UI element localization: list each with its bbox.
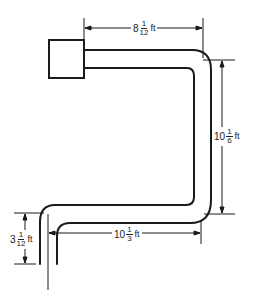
dim-denominator: 12 <box>17 240 26 248</box>
right-dimension-label: 10 1 6 ft <box>214 127 240 146</box>
dim-whole: 10 <box>114 230 125 240</box>
dim-fraction: 1 12 <box>17 231 26 248</box>
dim-whole: 8 <box>133 24 139 34</box>
arrowhead <box>196 26 202 30</box>
arrowhead <box>85 26 91 30</box>
dim-denominator: 12 <box>140 29 149 37</box>
arrowhead <box>23 214 27 220</box>
dim-denominator: 6 <box>227 137 231 145</box>
dim-fraction: 1 12 <box>140 20 149 37</box>
bottom-dimension-label: 10 1 3 ft <box>112 226 142 243</box>
dim-whole: 10 <box>214 132 225 142</box>
arrowhead <box>220 207 224 213</box>
top-dimension-label: 8 1 12 ft <box>131 20 157 37</box>
dim-unit: ft <box>135 230 140 239</box>
dim-fraction: 1 3 <box>126 226 132 243</box>
arrowhead <box>194 231 200 235</box>
dim-fraction: 1 6 <box>226 128 232 145</box>
dim-unit: ft <box>235 132 240 141</box>
dim-denominator: 3 <box>127 235 131 243</box>
source-box <box>49 40 84 78</box>
dim-unit: ft <box>27 235 32 244</box>
pipe-diagram <box>0 0 255 302</box>
arrowhead <box>220 61 224 67</box>
arrowhead <box>49 231 55 235</box>
dim-unit: ft <box>150 24 155 33</box>
left-dimension-label: 3 1 12 ft <box>10 230 32 249</box>
arrowhead <box>23 257 27 263</box>
dim-whole: 3 <box>10 235 16 245</box>
